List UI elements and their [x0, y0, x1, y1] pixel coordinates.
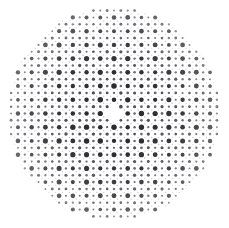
figure-root — [0, 0, 229, 228]
dot-lattice-pattern — [0, 0, 229, 228]
